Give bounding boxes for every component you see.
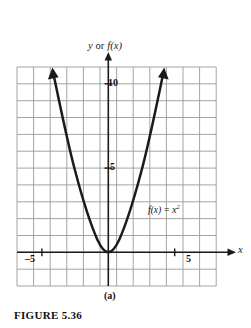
x-axis-title: x [238,244,243,255]
curve-equation-exponent: 2 [177,203,180,210]
curve-equation-label: f(x) = x2 [148,203,180,215]
curve-arrow-right [158,68,169,80]
x-tick-label-neg5: –5 [25,253,35,264]
x-tick-label-5: 5 [186,253,191,264]
y-tick-label-10: 10 [108,77,118,88]
y-tick-label-5: 5 [110,161,115,172]
panel-label: (a) [104,290,116,301]
curve-arrow-left [48,68,59,80]
figure-container: y or f(x) [0,0,251,328]
plot-area [0,0,251,328]
curve-equation-main: f(x) = x [148,205,177,215]
figure-caption: FIGURE 5.36 [14,309,82,321]
